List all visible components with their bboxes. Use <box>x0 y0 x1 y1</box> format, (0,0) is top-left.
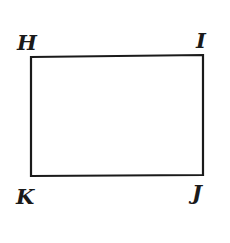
rectangle-diagram: H I J K <box>0 0 230 243</box>
vertex-label-h: H <box>16 30 38 55</box>
vertex-label-i: I <box>195 28 207 53</box>
vertex-label-k: K <box>15 184 35 209</box>
vertex-label-j: J <box>188 180 204 205</box>
rectangle-hijk <box>31 55 203 176</box>
